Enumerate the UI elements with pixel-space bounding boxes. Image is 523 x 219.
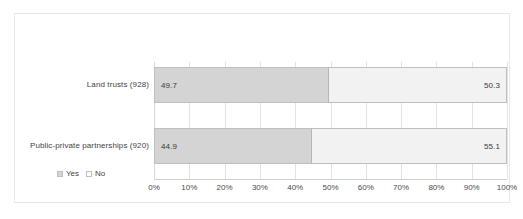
- bar-segment-no-land-trusts[interactable]: 50.3: [329, 67, 507, 103]
- x-axis-line: [154, 179, 507, 180]
- legend-label-yes: Yes: [66, 169, 79, 178]
- x-tick-label-70: 70%: [393, 183, 409, 192]
- x-tick-label-0: 0%: [148, 183, 160, 192]
- bar-segment-no-public-private-partnerships[interactable]: 55.1: [312, 128, 507, 164]
- x-tick-label-80: 80%: [428, 183, 444, 192]
- legend-label-no: No: [95, 169, 105, 178]
- bar-value-no-land-trusts: 50.3: [478, 81, 506, 90]
- chart-legend: Yes No: [57, 169, 105, 178]
- bar-value-yes-public-private-partnerships: 44.9: [155, 142, 183, 151]
- bar-row-public-private-partnerships: 44.9 55.1: [154, 128, 507, 164]
- legend-swatch-no-icon: [86, 171, 92, 177]
- x-tick-label-100: 100%: [497, 183, 517, 192]
- category-label-public-private-partnerships: Public-private partnerships (920): [0, 141, 149, 150]
- legend-item-no[interactable]: No: [86, 169, 105, 178]
- bar-value-no-public-private-partnerships: 55.1: [478, 142, 506, 151]
- bar-row-land-trusts: 49.7 50.3: [154, 67, 507, 103]
- x-tick-label-10: 10%: [181, 183, 197, 192]
- bar-segment-yes-public-private-partnerships[interactable]: 44.9: [154, 128, 312, 164]
- chart-frame: Land trusts (928) Public-private partner…: [14, 13, 510, 203]
- plot-area: 49.7 50.3 44.9 55.1: [154, 62, 507, 179]
- legend-item-yes[interactable]: Yes: [57, 169, 79, 178]
- bar-segment-yes-land-trusts[interactable]: 49.7: [154, 67, 329, 103]
- x-tick-label-40: 40%: [287, 183, 303, 192]
- x-tick-label-30: 30%: [252, 183, 268, 192]
- x-tick-label-60: 60%: [358, 183, 374, 192]
- x-tick-label-20: 20%: [217, 183, 233, 192]
- category-label-land-trusts: Land trusts (928): [0, 80, 149, 89]
- legend-swatch-yes-icon: [57, 171, 63, 177]
- x-tick-label-90: 90%: [464, 183, 480, 192]
- gridline-100: [507, 62, 508, 179]
- bar-value-yes-land-trusts: 49.7: [155, 81, 183, 90]
- x-tick-label-50: 50%: [322, 183, 338, 192]
